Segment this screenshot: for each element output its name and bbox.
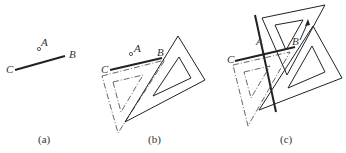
panel-a: A B C (a)	[6, 36, 76, 146]
panel-c: A B C (c)	[227, 5, 342, 146]
set-square-solid-upper-inner	[275, 20, 303, 50]
arrow-head-icon	[305, 19, 310, 26]
label-b: B	[69, 48, 76, 60]
line-cb	[15, 56, 65, 70]
set-square-dashed-inner	[113, 75, 143, 112]
caption-c: (c)	[280, 133, 293, 146]
perpendicular-line	[255, 15, 276, 112]
label-b: B	[157, 46, 164, 58]
label-a: A	[133, 42, 141, 54]
line-cb	[110, 58, 162, 70]
diagram-canvas: A B C (a) A B C (b) A B C	[0, 0, 346, 153]
label-c: C	[6, 63, 14, 75]
set-square-solid-lower-inner	[288, 46, 325, 88]
caption-b: (b)	[148, 133, 161, 146]
point-a	[129, 52, 132, 55]
label-a: A	[255, 35, 263, 47]
panel-b: A B C (b)	[101, 36, 205, 146]
label-c: C	[227, 53, 235, 65]
caption-a: (a)	[38, 133, 51, 146]
label-c: C	[101, 63, 109, 75]
label-a: A	[40, 36, 48, 48]
set-square-dashed	[102, 60, 165, 133]
